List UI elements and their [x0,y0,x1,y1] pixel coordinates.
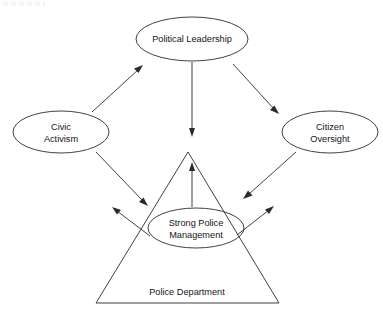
node-political-leadership-label: Political Leadership [152,34,232,44]
node-strong-police-management-ellipse [148,208,244,248]
node-political-leadership[interactable]: Political Leadership [136,17,248,61]
node-citizen-oversight-label-line2: Oversight [310,134,350,144]
node-citizen-oversight[interactable]: Citizen Oversight [282,111,378,153]
node-strong-police-management[interactable]: Strong Police Management [148,208,244,248]
connector-management-to-apex [189,162,195,207]
node-citizen-oversight-ellipse [282,111,378,153]
node-civic-activism-label-line1: Civic [51,122,71,132]
connector-civic-to-political [92,65,143,112]
node-civic-activism-ellipse [13,111,109,153]
police-department-label: Police Department [149,287,225,297]
connector-management-out-left [112,207,150,236]
connector-political-to-management [189,62,195,137]
connector-political-to-citizen [233,64,279,114]
connector-civic-to-management [96,152,148,206]
node-citizen-oversight-label-line1: Citizen [316,122,344,132]
connector-management-out-right [237,206,274,235]
node-civic-activism-label-line2: Activism [44,134,79,144]
node-strong-police-management-label-line1: Strong Police [169,218,224,228]
node-strong-police-management-label-line2: Management [169,230,223,240]
node-civic-activism[interactable]: Civic Activism [13,111,109,153]
diagram-svg: Political Leadership Civic Activism Citi… [0,0,383,314]
connector-citizen-to-management [243,152,296,199]
diagram-canvas: Political Leadership Civic Activism Citi… [0,0,383,314]
